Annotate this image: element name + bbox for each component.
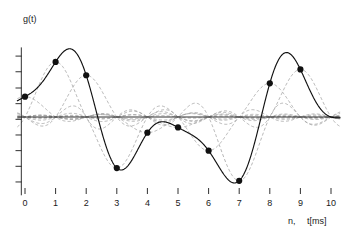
sample-point-n2 [83, 72, 89, 78]
x-tick-label-10: 10 [326, 198, 336, 208]
x-tick-label-8: 8 [267, 198, 272, 208]
y-axis-label: g(t) [23, 14, 37, 24]
sample-point-n5 [175, 124, 181, 130]
x-axis-label-index: n, [288, 216, 296, 226]
x-tick-label-9: 9 [298, 198, 303, 208]
sinc-kernel-n3 [17, 106, 340, 168]
sample-point-n8 [267, 80, 273, 86]
sinc-kernel-n9 [17, 69, 340, 127]
sample-point-n7 [236, 178, 242, 184]
x-tick-label-0: 0 [22, 198, 27, 208]
x-tick-label-3: 3 [114, 198, 119, 208]
x-tick-label-4: 4 [145, 198, 150, 208]
x-tick-label-5: 5 [175, 198, 180, 208]
x-tick-label-1: 1 [53, 198, 58, 208]
x-axis-label-time: t[ms] [307, 216, 327, 226]
sample-point-n4 [144, 130, 150, 136]
sample-point-n6 [206, 148, 212, 154]
x-tick-label-6: 6 [206, 198, 211, 208]
sinc-kernel-curves [17, 62, 340, 181]
axis-labels-group: 012345678910g(t)n,t[ms] [22, 14, 336, 226]
sample-point-n3 [114, 165, 120, 171]
sample-point-n1 [53, 59, 59, 65]
sinc-interpolation-chart: 012345678910g(t)n,t[ms] [0, 0, 346, 241]
x-tick-label-7: 7 [237, 198, 242, 208]
chart-canvas: 012345678910g(t)n,t[ms] [0, 0, 346, 241]
sinc-kernel-n8 [17, 83, 340, 124]
sample-point-n0 [22, 94, 28, 100]
sample-point-n9 [297, 66, 303, 72]
axes-group [16, 47, 341, 195]
x-tick-label-2: 2 [84, 198, 89, 208]
